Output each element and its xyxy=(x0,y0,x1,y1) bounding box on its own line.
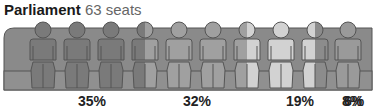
percentage-label: 6% xyxy=(344,93,364,109)
percentage-label: 32% xyxy=(183,93,211,109)
percentage-label: 35% xyxy=(78,93,106,109)
percentage-label: 19% xyxy=(286,93,314,109)
